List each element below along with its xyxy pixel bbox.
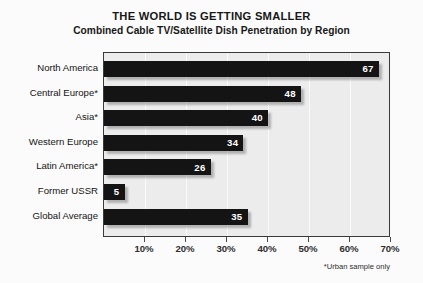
x-tick-mark xyxy=(308,237,309,242)
x-tick-mark xyxy=(185,237,186,242)
x-tick-mark xyxy=(349,237,350,242)
category-label: Asia* xyxy=(0,109,98,125)
bar[interactable]: 26 xyxy=(104,159,211,175)
x-tick-label: 40% xyxy=(247,243,287,255)
category-label: Latin America* xyxy=(0,158,98,174)
bar[interactable]: 34 xyxy=(104,135,243,151)
bar-value-label: 34 xyxy=(227,138,238,148)
bar-value-label: 48 xyxy=(285,89,296,99)
footnote-annotation: *Urban sample only xyxy=(324,262,390,271)
bar-value-label: 67 xyxy=(362,64,373,74)
x-tick-label: 20% xyxy=(165,243,205,255)
x-tick-label: 60% xyxy=(329,243,369,255)
chart-title-block: THE WORLD IS GETTING SMALLER Combined Ca… xyxy=(0,10,423,37)
bar-value-label: 26 xyxy=(194,163,205,173)
plot-area: 6748403426535 xyxy=(103,52,390,237)
x-tick-label: 10% xyxy=(124,243,164,255)
chart-container: THE WORLD IS GETTING SMALLER Combined Ca… xyxy=(0,0,423,283)
category-label: Former USSR xyxy=(0,183,98,199)
category-axis-labels: North AmericaCentral Europe*Asia*Western… xyxy=(0,52,98,237)
plot-inner: 6748403426535 xyxy=(104,53,389,236)
x-tick-mark xyxy=(267,237,268,242)
bar[interactable]: 48 xyxy=(104,86,301,102)
x-tick-mark xyxy=(144,237,145,242)
x-tick-label: 30% xyxy=(206,243,246,255)
x-tick-label: 50% xyxy=(288,243,328,255)
bar[interactable]: 40 xyxy=(104,110,268,126)
chart-subtitle: Combined Cable TV/Satellite Dish Penetra… xyxy=(0,24,423,37)
category-label: Central Europe* xyxy=(0,85,98,101)
bars-layer: 6748403426535 xyxy=(104,53,389,236)
bar[interactable]: 67 xyxy=(104,61,379,77)
bar[interactable]: 5 xyxy=(104,184,125,200)
category-label: Western Europe xyxy=(0,134,98,150)
x-tick-mark xyxy=(226,237,227,242)
category-label: North America xyxy=(0,60,98,76)
chart-title: THE WORLD IS GETTING SMALLER xyxy=(0,10,423,23)
x-tick-label: 70% xyxy=(370,243,410,255)
bar-value-label: 5 xyxy=(114,187,120,197)
bar[interactable]: 35 xyxy=(104,209,248,225)
x-tick-mark xyxy=(390,237,391,242)
bar-value-label: 35 xyxy=(231,212,242,222)
bar-value-label: 40 xyxy=(252,113,263,123)
category-label: Global Average xyxy=(0,208,98,224)
